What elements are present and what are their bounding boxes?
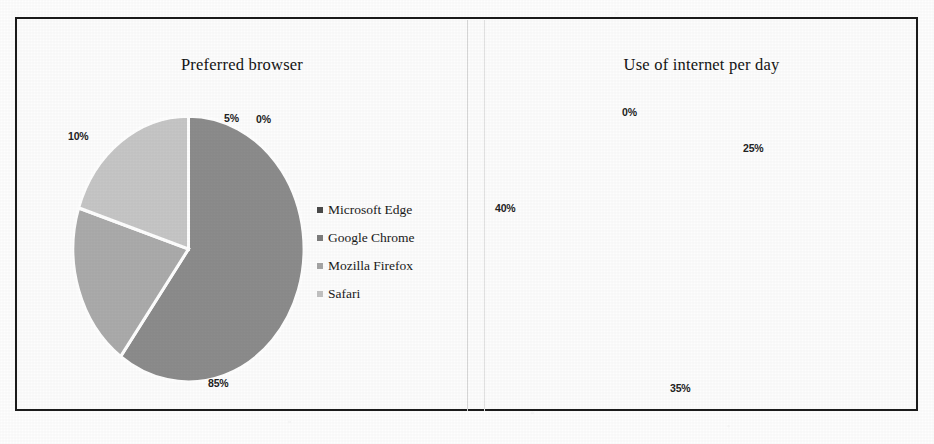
legend-label-google-chrome: Google Chrome bbox=[328, 230, 415, 246]
pie-chart-preferred-browser bbox=[73, 116, 304, 382]
data-label-browser-eightyfive: 85% bbox=[208, 377, 228, 389]
data-label-browser-five: 5% bbox=[224, 112, 239, 124]
figure-frame: Preferred browser 0% 5% 10% 85% Mic bbox=[15, 17, 918, 411]
legend-preferred-browser: Microsoft Edge Google Chrome Mozilla Fir… bbox=[317, 202, 415, 314]
pie-browser-svg bbox=[73, 116, 304, 382]
legend-item-microsoft-edge[interactable]: Microsoft Edge bbox=[317, 202, 415, 217]
data-label-internet-thirtyfive: 35% bbox=[670, 382, 690, 394]
legend-item-google-chrome[interactable]: Google Chrome bbox=[317, 230, 415, 245]
legend-swatch-icon-google-chrome bbox=[317, 235, 323, 241]
data-label-internet-twentyfive: 25% bbox=[743, 142, 763, 154]
legend-label-microsoft-edge: Microsoft Edge bbox=[328, 202, 412, 218]
chart-title-preferred-browser: Preferred browser bbox=[17, 55, 467, 75]
scanned-page: Preferred browser 0% 5% 10% 85% Mic bbox=[0, 0, 934, 444]
panel-divider bbox=[467, 20, 468, 411]
legend-swatch-icon-microsoft-edge bbox=[317, 207, 323, 213]
legend-label-mozilla-firefox: Mozilla Firefox bbox=[328, 258, 413, 274]
legend-item-safari[interactable]: Safari bbox=[317, 286, 415, 301]
data-label-browser-ten: 10% bbox=[68, 130, 88, 142]
chart-panel-preferred-browser: Preferred browser 0% 5% 10% 85% Mic bbox=[17, 19, 467, 409]
legend-item-mozilla-firefox[interactable]: Mozilla Firefox bbox=[317, 258, 415, 273]
legend-swatch-icon-mozilla-firefox bbox=[317, 263, 323, 269]
data-label-internet-forty: 40% bbox=[495, 202, 515, 214]
data-label-browser-zero: 0% bbox=[256, 113, 271, 125]
legend-label-safari: Safari bbox=[328, 286, 360, 302]
chart-panel-internet-use: Use of internet per day 0% 25% 35% 40% bbox=[485, 19, 918, 409]
chart-title-internet-use: Use of internet per day bbox=[485, 55, 918, 75]
data-label-internet-zero: 0% bbox=[622, 106, 637, 118]
legend-swatch-icon-safari bbox=[317, 291, 323, 297]
